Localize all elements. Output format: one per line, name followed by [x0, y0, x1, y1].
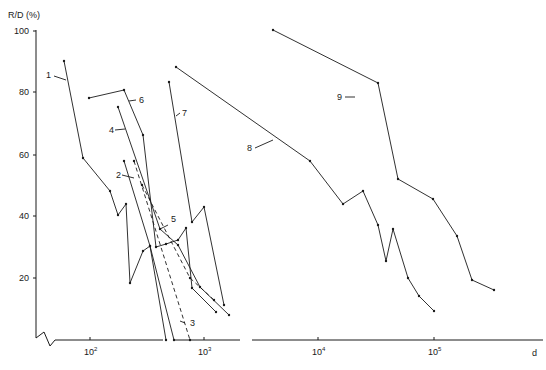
data-markers: [63, 29, 495, 341]
chart-canvas: 10080604020 102103104105 R/D (%) d 12345…: [0, 0, 546, 370]
data-point: [63, 60, 65, 62]
data-point: [165, 243, 167, 245]
data-point: [362, 190, 364, 192]
data-point: [418, 295, 420, 297]
data-point: [149, 245, 151, 247]
series-label-9: 9: [337, 92, 342, 102]
data-point: [168, 81, 170, 83]
data-point: [125, 203, 127, 205]
data-point: [142, 134, 144, 136]
series-label-2: 2: [116, 170, 121, 180]
x-axis-label: d: [532, 348, 537, 358]
series-label-1: 1: [46, 70, 51, 80]
data-point: [175, 66, 177, 68]
data-point: [141, 184, 143, 186]
series-4-line: [118, 107, 229, 315]
data-point: [185, 227, 187, 229]
data-point: [433, 310, 435, 312]
data-point: [471, 279, 473, 281]
data-point: [203, 206, 205, 208]
data-point: [342, 203, 344, 205]
series-lines: [64, 30, 494, 340]
series-5-line: [142, 185, 214, 300]
series-label-6: 6: [139, 95, 144, 105]
series-label-4: 4: [109, 125, 114, 135]
data-point: [397, 178, 399, 180]
data-point: [189, 339, 191, 341]
data-point: [228, 314, 230, 316]
data-point: [493, 289, 495, 291]
data-point: [82, 157, 84, 159]
axis-break: [36, 332, 55, 346]
y-tick-label: 100: [14, 26, 29, 36]
y-axis-label: R/D (%): [8, 10, 40, 20]
data-point: [213, 299, 215, 301]
x-tick-label: 103: [198, 346, 212, 357]
series-label-7: 7: [182, 108, 187, 118]
data-point: [432, 198, 434, 200]
series-label-8: 8: [247, 143, 252, 153]
data-point: [109, 190, 111, 192]
data-point: [88, 97, 90, 99]
data-point: [142, 250, 144, 252]
data-point: [117, 214, 119, 216]
data-point: [177, 239, 179, 241]
y-tick-label: 60: [19, 150, 29, 160]
series-6-line: [89, 90, 216, 312]
series-labels: 123456789: [46, 70, 342, 328]
data-point: [456, 235, 458, 237]
series-8-line: [176, 67, 434, 311]
x-tick-label: 102: [84, 346, 98, 357]
data-point: [191, 221, 193, 223]
y-ticks: 10080604020: [14, 26, 36, 283]
data-point: [165, 339, 167, 341]
data-point: [309, 160, 311, 162]
data-point: [191, 287, 193, 289]
series-label-3: 3: [190, 318, 195, 328]
data-point: [189, 277, 191, 279]
data-point: [392, 228, 394, 230]
data-point: [133, 160, 135, 162]
data-point: [199, 286, 201, 288]
data-point: [407, 277, 409, 279]
data-point: [177, 244, 179, 246]
label-arrows: [54, 76, 355, 323]
series-label-5: 5: [171, 214, 176, 224]
data-point: [223, 304, 225, 306]
data-point: [155, 246, 157, 248]
data-point: [385, 260, 387, 262]
y-tick-label: 80: [19, 87, 29, 97]
data-point: [123, 89, 125, 91]
data-point: [117, 106, 119, 108]
data-point: [377, 82, 379, 84]
data-point: [377, 224, 379, 226]
data-point: [215, 311, 217, 313]
x-tick-label: 105: [428, 346, 442, 357]
data-point: [173, 339, 175, 341]
data-point: [129, 282, 131, 284]
data-point: [123, 160, 125, 162]
y-tick-label: 20: [19, 273, 29, 283]
y-tick-label: 40: [19, 211, 29, 221]
data-point: [272, 29, 274, 31]
x-tick-label: 104: [312, 346, 326, 357]
